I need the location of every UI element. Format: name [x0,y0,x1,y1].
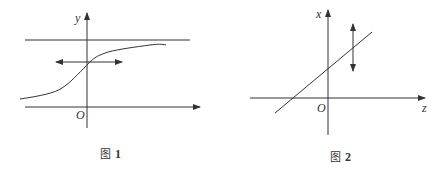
fig1-caption-number: 1 [115,147,121,161]
figure-1: y O 图 1 [20,11,200,161]
fig2-x-label: x [315,7,322,21]
diagram-canvas: y O 图 1 x O z 图 2 [0,0,440,175]
fig2-origin-label: O [317,101,326,115]
fig2-caption-prefix: 图 [330,151,341,164]
fig2-caption-number: 2 [345,150,351,164]
fig1-y-label: y [74,11,81,25]
fig1-curve [20,44,166,99]
fig1-origin-label: O [76,108,85,122]
fig2-z-label: z [421,101,427,115]
figure-2: x O z 图 2 [250,7,427,164]
fig1-caption-prefix: 图 [100,148,111,161]
